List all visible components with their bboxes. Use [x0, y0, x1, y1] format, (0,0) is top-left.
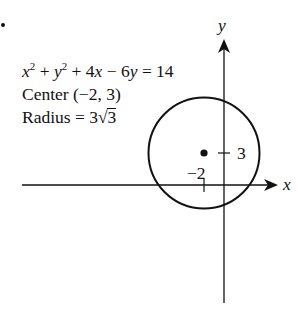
center-point	[200, 149, 207, 156]
y-axis-label: y	[216, 15, 226, 35]
x-tick-label: −2	[187, 163, 206, 183]
coordinate-plot: 3 −2 x y	[0, 0, 298, 323]
x-axis-label: x	[282, 174, 291, 194]
y-tick-label: 3	[237, 143, 246, 163]
